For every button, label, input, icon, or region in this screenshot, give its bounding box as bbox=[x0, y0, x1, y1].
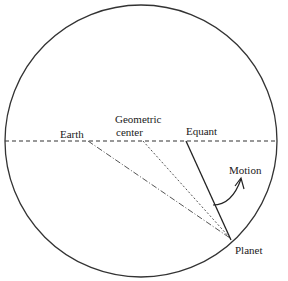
motion-label: Motion bbox=[229, 164, 262, 176]
earth-label: Earth bbox=[60, 128, 84, 140]
equant-diagram: Earth Geometric center Equant Motion Pla… bbox=[0, 0, 288, 281]
equant-label: Equant bbox=[186, 125, 217, 137]
planet-label: Planet bbox=[235, 244, 263, 256]
equant-to-planet-line bbox=[186, 141, 231, 240]
center-to-planet-line bbox=[143, 141, 230, 238]
geometric-center-label-line2: center bbox=[116, 126, 143, 138]
geometric-center-label-line1: Geometric bbox=[115, 113, 162, 125]
diagram-canvas: Earth Geometric center Equant Motion Pla… bbox=[0, 0, 288, 281]
